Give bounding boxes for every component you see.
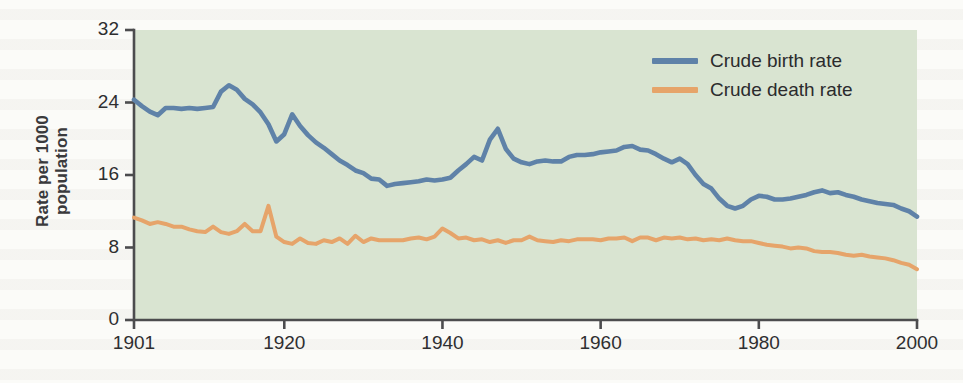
legend-label-birth-rate: Crude birth rate (710, 50, 842, 72)
y-tick-label: 16 (65, 163, 119, 185)
legend-swatch-birth-rate (652, 58, 698, 64)
y-tick-label: 8 (65, 236, 119, 258)
legend-label-death-rate: Crude death rate (710, 79, 853, 101)
chart-figure: Rate per 1000 population 08162432 190119… (0, 0, 963, 383)
chart-legend: Crude birth rate Crude death rate (652, 46, 853, 104)
legend-swatch-death-rate (652, 87, 698, 93)
y-tick-label: 0 (65, 308, 119, 330)
x-tick-label: 1980 (714, 332, 804, 354)
x-tick-label: 1920 (239, 332, 329, 354)
x-tick-label: 1901 (89, 332, 179, 354)
y-tick-label: 24 (65, 91, 119, 113)
x-tick-label: 1940 (397, 332, 487, 354)
legend-item-birth-rate: Crude birth rate (652, 46, 853, 75)
legend-item-death-rate: Crude death rate (652, 75, 853, 104)
x-tick-label: 2000 (872, 332, 962, 354)
x-tick-label: 1960 (556, 332, 646, 354)
y-tick-label: 32 (65, 18, 119, 40)
